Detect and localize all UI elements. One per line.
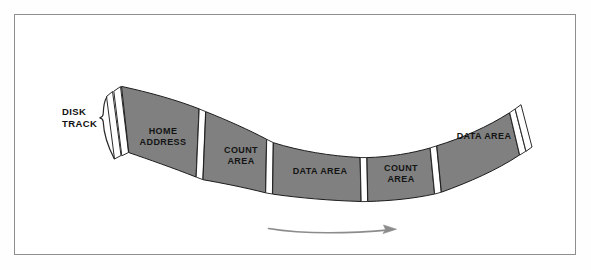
segment-label-count-area-1-line1: COUNT — [224, 145, 258, 155]
segment-label-count-area-2-line1: COUNT — [384, 163, 418, 173]
segment-label-home-address-line2: ADDRESS — [140, 137, 187, 147]
track-gap-3 — [360, 158, 367, 202]
disk-track-diagram: HOME ADDRESS COUNT AREA DATA AREA COUNT … — [0, 0, 591, 270]
disk-track-callout: DISK TRACK — [62, 97, 114, 159]
segment-label-home-address-line1: HOME — [149, 126, 178, 136]
arrow-shaft — [269, 229, 393, 233]
segment-label-data-area-1: DATA AREA — [293, 166, 348, 176]
figure-root: HOME ADDRESS COUNT AREA DATA AREA COUNT … — [0, 0, 591, 270]
segment-label-count-area-1-line2: AREA — [227, 156, 254, 166]
arrow-head-icon — [383, 225, 397, 234]
disk-track-label-line2: TRACK — [62, 118, 97, 129]
disk-track-label-line1: DISK — [62, 106, 86, 117]
segment-label-count-area-2-line2: AREA — [387, 174, 414, 184]
track-segment-data-area-2[interactable] — [437, 113, 520, 192]
rotation-direction-arrow — [269, 225, 397, 234]
track-gap-2 — [266, 139, 274, 194]
segment-label-data-area-2: DATA AREA — [457, 131, 512, 141]
